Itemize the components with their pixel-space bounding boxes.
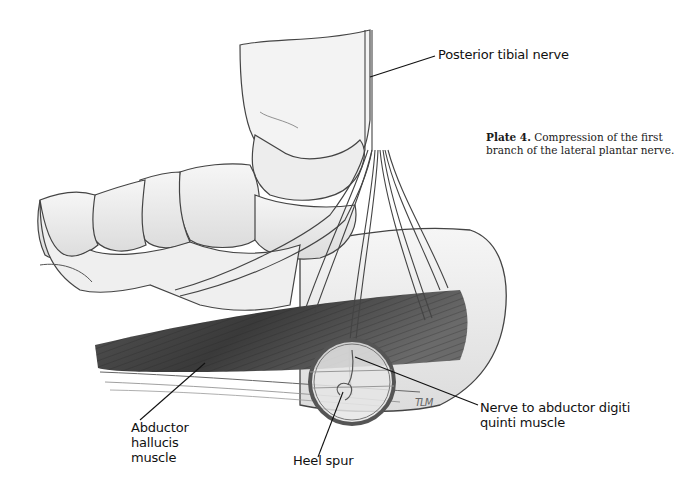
compression-inset [310,340,394,424]
anatomical-plate: Posterior tibial nerve Nerve to abductor… [0,0,680,495]
plate-caption: Plate 4. Compression of the first branch… [486,131,676,157]
label-heel-spur: Heel spur [293,453,353,468]
label-abductor-hallucis-muscle: Abductor hallucis muscle [131,420,189,465]
plate-number: Plate 4. [486,131,531,143]
label-nerve-to-abductor-digiti-quinti: Nerve to abductor digiti quinti muscle [480,400,630,430]
artist-signature: TLM [415,397,432,408]
label-posterior-tibial-nerve: Posterior tibial nerve [438,47,569,62]
